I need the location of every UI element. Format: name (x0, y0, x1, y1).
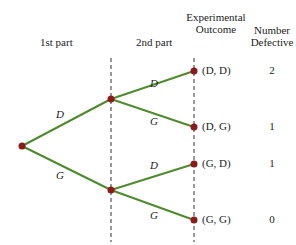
header-outcome-line1: Experimental (184, 11, 248, 23)
branch-label-gg: G (150, 209, 158, 221)
node-root (19, 143, 26, 150)
outcome-gd: (G, D) (202, 157, 231, 169)
node-dd (191, 68, 198, 75)
outcome-dd: (D, D) (202, 64, 231, 76)
header-defective: Number Defective (250, 24, 294, 48)
branch-first-g (22, 146, 111, 190)
header-first-part: 1st part (40, 36, 73, 48)
outcome-gg: (G, G) (202, 213, 231, 225)
defective-dd: 2 (262, 64, 282, 76)
tree-diagram: 1st part 2nd part Experimental Outcome N… (0, 0, 296, 245)
node-g (108, 187, 115, 194)
node-gg (191, 217, 198, 224)
branch-label-first-d: D (56, 108, 64, 120)
node-gd (191, 161, 198, 168)
node-dg (191, 124, 198, 131)
branch-label-first-g: G (56, 169, 64, 181)
node-d (108, 96, 115, 103)
header-outcome-line2: Outcome (184, 23, 248, 35)
branch-label-dd: D (150, 77, 158, 89)
branch-label-dg: G (150, 115, 158, 127)
defective-gd: 1 (262, 157, 282, 169)
defective-gg: 0 (262, 213, 282, 225)
defective-dg: 1 (262, 120, 282, 132)
header-second-part: 2nd part (136, 36, 172, 48)
header-defective-line2: Defective (250, 36, 294, 48)
header-outcome: Experimental Outcome (184, 11, 248, 35)
branch-label-gd: D (150, 159, 158, 171)
branch-first-d (22, 99, 111, 146)
header-defective-line1: Number (250, 24, 294, 36)
outcome-dg: (D, G) (202, 120, 231, 132)
